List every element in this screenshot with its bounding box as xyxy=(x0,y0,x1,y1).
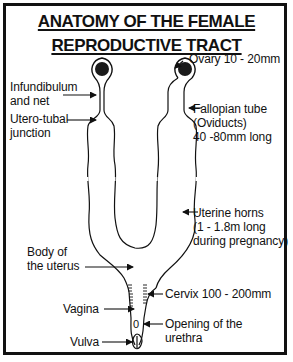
horn-marks xyxy=(88,177,197,181)
label-ovary: Ovary 10 - 20mm xyxy=(189,53,280,67)
label-cervix: Cervix 100 - 200mm xyxy=(165,288,271,302)
label-body-uterus-1: Body of xyxy=(27,246,67,260)
label-utero-tubal-2: junction xyxy=(10,127,51,141)
label-uterine-horns-2: (1 - 1.8m long xyxy=(193,221,266,235)
label-fallopian-2: (Oviducts) xyxy=(193,117,247,131)
label-body-uterus-2: the uterus xyxy=(27,260,79,274)
left-ovary-icon xyxy=(92,58,112,78)
label-urethra-2: urethra xyxy=(165,332,202,346)
label-fallopian-1: Fallopian tube xyxy=(193,103,267,117)
label-vulva: Vulva xyxy=(70,336,99,350)
tract-outline xyxy=(87,78,196,349)
label-uterine-horns-3: during pregnancy) xyxy=(193,235,288,249)
label-utero-tubal-1: Utero-tubal xyxy=(10,113,68,127)
label-infundibulum-2: and net xyxy=(10,95,49,109)
urethra-marker: 0 xyxy=(133,318,139,332)
label-vagina: Vagina xyxy=(63,303,99,317)
cervix-rings xyxy=(128,285,147,306)
label-infundibulum-1: Infundibulum xyxy=(10,81,78,95)
label-urethra-1: Opening of the xyxy=(165,318,242,332)
label-fallopian-3: 40 -80mm long xyxy=(193,131,272,145)
label-uterine-horns-1: Uterine horns xyxy=(193,207,264,221)
